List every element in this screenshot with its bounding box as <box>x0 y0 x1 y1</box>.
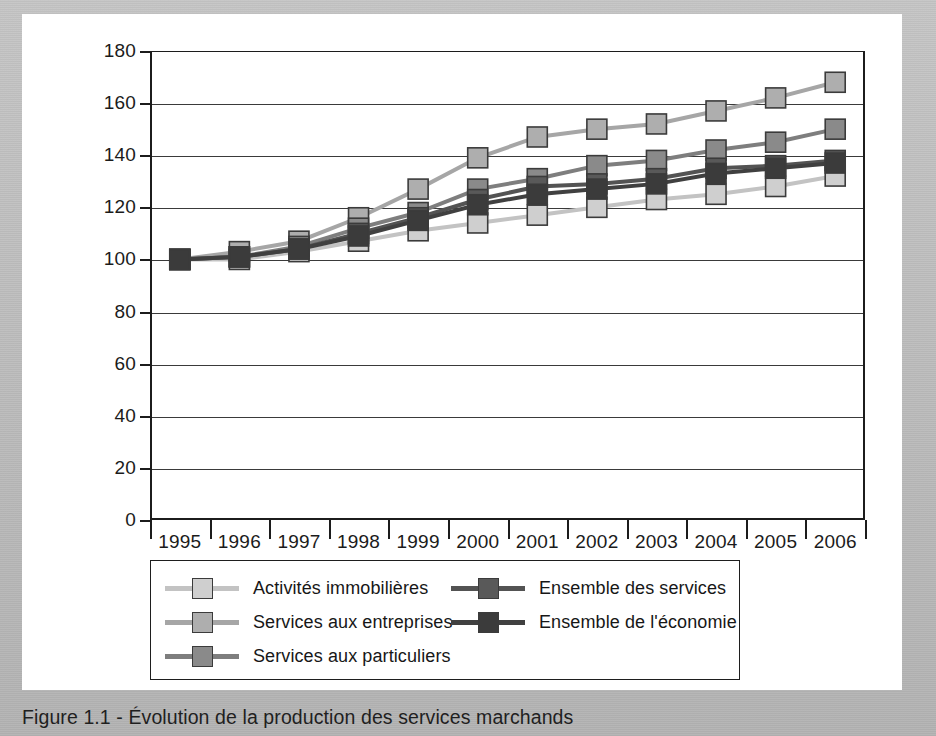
legend-label: Services aux particuliers <box>253 646 451 667</box>
legend-marker-swatch <box>478 612 499 633</box>
data-point-marker <box>587 119 607 139</box>
data-point-marker <box>706 184 726 204</box>
data-point-marker <box>349 226 369 246</box>
data-point-marker <box>646 174 666 194</box>
series-5 <box>170 153 845 269</box>
legend-line-sample <box>165 620 239 625</box>
chart-legend: Activités immobilièresEnsemble des servi… <box>150 560 740 680</box>
data-point-marker <box>646 150 666 170</box>
legend-item: Services aux particuliers <box>165 643 451 669</box>
x-axis-tick-mark <box>746 520 748 539</box>
data-point-marker <box>825 72 845 92</box>
data-point-marker <box>527 184 547 204</box>
data-point-marker <box>408 210 428 230</box>
y-axis-tick-label: 120 <box>76 196 136 218</box>
data-point-marker <box>825 119 845 139</box>
data-point-marker <box>766 88 786 108</box>
x-axis-tick-mark <box>805 520 807 539</box>
data-point-marker <box>706 101 726 121</box>
legend-item: Ensemble des services <box>451 575 726 601</box>
data-point-marker <box>527 127 547 147</box>
x-axis-tick-label: 2002 <box>575 531 618 553</box>
y-axis-tick-label: 80 <box>76 301 136 323</box>
data-point-marker <box>170 249 190 269</box>
data-point-marker <box>766 176 786 196</box>
data-point-marker <box>527 205 547 225</box>
x-axis-tick-mark <box>567 520 569 539</box>
figure-caption: Figure 1.1 - Évolution de la production … <box>22 706 922 729</box>
legend-line-sample <box>451 620 525 625</box>
y-axis-tick-label: 180 <box>76 40 136 62</box>
y-axis-tick-label: 140 <box>76 144 136 166</box>
y-axis-labels: 020406080100120140160180 <box>74 51 136 520</box>
y-axis-tick-label: 160 <box>76 92 136 114</box>
figure-panel: 020406080100120140160180 199519961997199… <box>22 14 902 690</box>
y-axis-tick-label: 100 <box>76 248 136 270</box>
x-axis-tick-mark <box>210 520 212 539</box>
x-axis-tick-label: 2006 <box>814 531 857 553</box>
data-point-marker <box>646 114 666 134</box>
chart-plot-area: 020406080100120140160180 199519961997199… <box>22 14 902 534</box>
x-axis-tick-label: 2001 <box>516 531 559 553</box>
legend-label: Activités immobilières <box>253 578 428 599</box>
legend-label: Ensemble de l'économie <box>539 612 737 633</box>
legend-label: Services aux entreprises <box>253 612 453 633</box>
data-point-marker <box>587 179 607 199</box>
legend-marker-swatch <box>192 612 213 633</box>
data-point-marker <box>766 132 786 152</box>
y-axis-tick-label: 0 <box>76 509 136 531</box>
data-point-marker <box>766 158 786 178</box>
x-axis-tick-mark <box>448 520 450 539</box>
x-axis-tick-label: 2004 <box>694 531 737 553</box>
legend-item: Ensemble de l'économie <box>451 609 737 635</box>
data-point-marker <box>706 163 726 183</box>
x-axis-tick-mark <box>150 520 152 539</box>
legend-line-sample <box>165 654 239 659</box>
x-axis-tick-mark <box>865 520 867 539</box>
data-point-marker <box>706 140 726 160</box>
x-axis-tick-mark <box>269 520 271 539</box>
legend-line-sample <box>451 586 525 591</box>
legend-marker-swatch <box>192 646 213 667</box>
legend-line-sample <box>165 586 239 591</box>
data-point-marker <box>587 156 607 176</box>
x-axis-tick-label: 1998 <box>337 531 380 553</box>
legend-label: Ensemble des services <box>539 578 726 599</box>
x-axis-tick-label: 2003 <box>635 531 678 553</box>
y-axis-tick-label: 40 <box>76 405 136 427</box>
x-axis-tick-label: 1999 <box>397 531 440 553</box>
series-layer <box>150 51 865 520</box>
x-axis-tick-mark <box>686 520 688 539</box>
x-axis-tick-label: 1997 <box>277 531 320 553</box>
x-axis-tick-mark <box>627 520 629 539</box>
data-point-marker <box>825 153 845 173</box>
series-line <box>180 176 835 259</box>
legend-item: Services aux entreprises <box>165 609 453 635</box>
legend-marker-swatch <box>192 578 213 599</box>
x-axis-tick-label: 1996 <box>218 531 261 553</box>
x-axis-tick-mark <box>508 520 510 539</box>
y-axis-tick-label: 60 <box>76 353 136 375</box>
x-axis-tick-mark <box>388 520 390 539</box>
x-axis: 1995199619971998199920002001200220032004… <box>150 520 865 554</box>
legend-marker-swatch <box>478 578 499 599</box>
data-point-marker <box>289 239 309 259</box>
data-point-marker <box>468 148 488 168</box>
x-axis-tick-label: 2005 <box>754 531 797 553</box>
legend-item: Activités immobilières <box>165 575 428 601</box>
data-point-marker <box>587 197 607 217</box>
data-point-marker <box>468 195 488 215</box>
x-axis-tick-mark <box>329 520 331 539</box>
data-point-marker <box>408 179 428 199</box>
x-axis-tick-label: 1995 <box>158 531 201 553</box>
y-axis-tick-label: 20 <box>76 457 136 479</box>
data-point-marker <box>468 213 488 233</box>
x-axis-tick-label: 2000 <box>456 531 499 553</box>
data-point-marker <box>229 247 249 267</box>
